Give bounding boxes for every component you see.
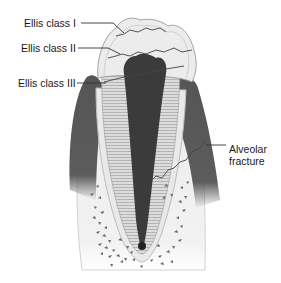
label-alveolar-fracture-line2: fracture bbox=[229, 155, 265, 167]
tooth-diagram: Ellis class I Ellis class II Ellis class… bbox=[0, 0, 281, 283]
label-alveolar-fracture-line1: Alveolar bbox=[229, 143, 267, 155]
apical-foramen bbox=[138, 242, 146, 250]
label-ellis-class-3: Ellis class III bbox=[18, 77, 76, 89]
label-ellis-class-1: Ellis class I bbox=[24, 17, 76, 29]
label-ellis-class-2: Ellis class II bbox=[21, 42, 76, 54]
